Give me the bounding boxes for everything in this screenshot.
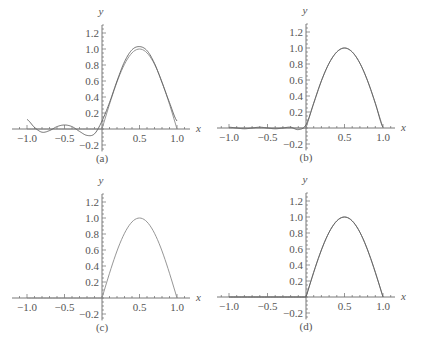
y-tick-label: 1.2 — [289, 195, 303, 207]
x-tick-label: −0.5 — [55, 132, 75, 144]
y-tick-label: 1.2 — [289, 26, 303, 38]
plot-panel-d: −1.0−0.50.51.01.21.00.80.60.40.2−0.2xy(d… — [217, 173, 406, 333]
x-tick-label: −1.0 — [219, 300, 239, 312]
figure-four-panel-plots: −1.0−0.50.51.01.21.00.80.60.40.2−0.2xy(a… — [0, 0, 421, 348]
x-tick-label: 0.5 — [133, 301, 147, 313]
panel-caption: (a) — [96, 152, 109, 165]
y-tick-label: −0.2 — [283, 307, 303, 319]
x-tick-label: −0.5 — [55, 301, 75, 313]
y-tick-label: 0.8 — [289, 227, 303, 239]
plot-panel-c: −1.0−0.50.51.01.21.00.80.60.40.2−0.2xy(c… — [12, 174, 201, 334]
y-tick-label: 0.2 — [85, 107, 99, 119]
x-axis-label: x — [400, 121, 406, 133]
y-axis-label: y — [302, 173, 308, 185]
y-tick-label: 0.6 — [289, 243, 303, 255]
x-tick-label: 0.5 — [338, 131, 352, 143]
x-tick-label: −0.5 — [258, 300, 278, 312]
x-tick-label: −0.5 — [258, 131, 278, 143]
x-axis-label: x — [195, 122, 201, 134]
y-tick-label: 0.4 — [289, 259, 303, 271]
y-tick-label: −0.2 — [79, 139, 99, 151]
y-tick-label: 0.2 — [85, 276, 99, 288]
x-tick-label: 1.0 — [376, 131, 390, 143]
x-axis-label: x — [400, 290, 406, 302]
y-axis-label: y — [98, 5, 104, 17]
y-tick-label: 1.0 — [289, 211, 303, 223]
x-tick-label: −1.0 — [219, 131, 239, 143]
x-tick-label: −1.0 — [17, 132, 37, 144]
panel-caption: (c) — [96, 321, 109, 334]
panel-caption: (b) — [300, 151, 313, 164]
y-tick-label: 0.8 — [85, 228, 99, 240]
plot-panel-b: −1.0−0.50.51.01.21.00.80.60.40.2−0.2xy(b… — [217, 4, 406, 164]
x-tick-label: 0.5 — [133, 132, 147, 144]
y-tick-label: 1.2 — [85, 27, 99, 39]
y-tick-label: 0.6 — [289, 74, 303, 86]
y-tick-label: 1.0 — [85, 43, 99, 55]
y-tick-label: 0.4 — [85, 91, 99, 103]
x-tick-label: −1.0 — [17, 301, 37, 313]
y-tick-label: −0.2 — [283, 138, 303, 150]
y-tick-label: 0.6 — [85, 244, 99, 256]
x-tick-label: 1.0 — [376, 300, 390, 312]
x-tick-label: 0.5 — [338, 300, 352, 312]
x-tick-label: 1.0 — [170, 132, 184, 144]
x-tick-label: 1.0 — [170, 301, 184, 313]
y-tick-label: 0.6 — [85, 75, 99, 87]
y-tick-label: 0.2 — [289, 275, 303, 287]
y-tick-label: 1.0 — [289, 42, 303, 54]
y-axis-label: y — [98, 174, 104, 186]
plot-panel-a: −1.0−0.50.51.01.21.00.80.60.40.2−0.2xy(a… — [12, 5, 201, 165]
y-tick-label: 0.8 — [85, 59, 99, 71]
y-tick-label: 0.4 — [289, 90, 303, 102]
y-axis-label: y — [302, 4, 308, 16]
y-tick-label: 1.2 — [85, 196, 99, 208]
y-tick-label: −0.2 — [79, 308, 99, 320]
y-tick-label: 1.0 — [85, 212, 99, 224]
y-tick-label: 0.4 — [85, 260, 99, 272]
y-tick-label: 0.2 — [289, 106, 303, 118]
panel-caption: (d) — [300, 320, 313, 333]
x-axis-label: x — [195, 291, 201, 303]
y-tick-label: 0.8 — [289, 58, 303, 70]
